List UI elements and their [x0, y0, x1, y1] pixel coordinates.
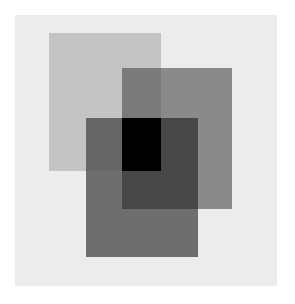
overlap-a-b-c — [122, 118, 161, 171]
overlap-a-c — [86, 118, 122, 171]
overlap-a-b — [122, 68, 161, 118]
